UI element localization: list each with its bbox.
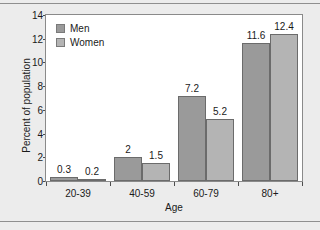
x-tick-mark	[174, 182, 175, 186]
y-tick-label: 2	[17, 152, 43, 163]
y-tick-label: 10	[17, 57, 43, 68]
y-tick-label: 4	[17, 128, 43, 139]
bar-men-40-59	[114, 157, 142, 181]
y-tick-label: 12	[17, 33, 43, 44]
chart-legend: MenWomen	[56, 21, 104, 49]
bar-value-label: 5.2	[213, 106, 227, 117]
plot-area: 0.30.221.57.25.211.612.4 MenWomen	[45, 14, 303, 182]
bar-women-80+	[270, 34, 298, 181]
x-tick-mark	[302, 182, 303, 186]
bar-women-60-79	[206, 119, 234, 181]
legend-swatch-icon	[56, 24, 65, 33]
legend-item-women: Women	[56, 35, 104, 49]
legend-label: Women	[70, 37, 104, 48]
bar-men-60-79	[178, 96, 206, 181]
legend-label: Men	[70, 23, 89, 34]
y-tick-label: 0	[17, 176, 43, 187]
y-tick-label: 14	[17, 10, 43, 21]
y-tick-label: 6	[17, 104, 43, 115]
y-tick-label: 8	[17, 81, 43, 92]
x-tick-mark	[110, 182, 111, 186]
bar-men-80+	[242, 43, 270, 181]
bar-women-40-59	[142, 163, 170, 181]
bottom-divider	[0, 221, 320, 222]
y-axis-ticks: 02468101214	[12, 0, 43, 230]
x-axis-title: Age	[45, 202, 303, 213]
bar-value-label: 12.4	[274, 21, 293, 32]
bar-value-label: 0.3	[57, 164, 71, 175]
x-tick-label-80+: 80+	[262, 188, 279, 199]
plot-inner: 0.30.221.57.25.211.612.4 MenWomen	[46, 15, 302, 181]
x-tick-label-60-79: 60-79	[193, 188, 219, 199]
legend-swatch-icon	[56, 38, 65, 47]
bar-value-label: 11.6	[247, 30, 266, 41]
bar-men-20-39	[50, 177, 78, 181]
x-tick-label-40-59: 40-59	[129, 188, 155, 199]
top-divider	[0, 3, 320, 4]
x-tick-label-20-39: 20-39	[65, 188, 91, 199]
bar-value-label: 0.2	[85, 166, 99, 177]
bar-value-label: 2	[125, 144, 131, 155]
x-tick-mark	[238, 182, 239, 186]
bar-women-20-39	[78, 179, 106, 182]
chart-figure: Percent of population Age 02468101214 0.…	[0, 0, 320, 230]
legend-item-men: Men	[56, 21, 104, 35]
x-tick-mark	[46, 182, 47, 186]
bar-value-label: 7.2	[185, 83, 199, 94]
bar-value-label: 1.5	[149, 150, 163, 161]
